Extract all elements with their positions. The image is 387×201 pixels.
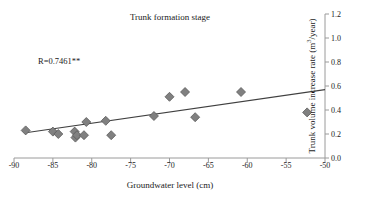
- y-tick-label: 0.4: [331, 106, 353, 115]
- y-tick-label: 1.2: [331, 10, 353, 19]
- data-point-marker: [107, 131, 116, 140]
- trend-line: [26, 90, 325, 133]
- y-axis-label-base: Trunk volume increase rate (m: [307, 43, 317, 154]
- data-point-marker: [191, 113, 200, 122]
- y-tick-label: 0.8: [331, 58, 353, 67]
- data-points: [21, 88, 311, 143]
- x-tick-label: -70: [157, 161, 183, 170]
- chart-title: Trunk formation stage: [0, 13, 340, 22]
- x-tick-label: -75: [118, 161, 144, 170]
- data-point-marker: [79, 131, 88, 140]
- y-tick-label: 0.0: [331, 154, 353, 163]
- y-tick-label: 0.2: [331, 130, 353, 139]
- x-tick-label: -80: [79, 161, 105, 170]
- x-tick-label: -60: [234, 161, 260, 170]
- y-axis-label: Trunk volume increase rate (m3/year): [306, 18, 317, 154]
- x-tick-label: -65: [195, 161, 221, 170]
- y-tick-label: 0.6: [331, 82, 353, 91]
- axes: [14, 14, 329, 162]
- data-point-marker: [21, 126, 30, 135]
- data-point-marker: [165, 92, 174, 101]
- data-point-marker: [101, 116, 110, 125]
- correlation-annotation: R=0.7461**: [38, 57, 80, 66]
- x-axis-label: Groundwater level (cm): [0, 181, 340, 190]
- y-axis-ticks: [325, 14, 329, 158]
- data-point-marker: [149, 112, 158, 121]
- x-tick-label: -90: [1, 161, 27, 170]
- plot-area: [0, 0, 387, 201]
- data-point-marker: [82, 118, 91, 127]
- y-axis-label-tail: /year): [307, 19, 317, 40]
- y-tick-label: 1.0: [331, 34, 353, 43]
- x-tick-label: -85: [40, 161, 66, 170]
- y-axis-label-exponent: 3: [305, 40, 312, 43]
- data-point-marker: [181, 88, 190, 97]
- x-tick-label: -55: [273, 161, 299, 170]
- scatter-chart: Trunk formation stage R=0.7461** Groundw…: [0, 0, 387, 201]
- data-point-marker: [237, 88, 246, 97]
